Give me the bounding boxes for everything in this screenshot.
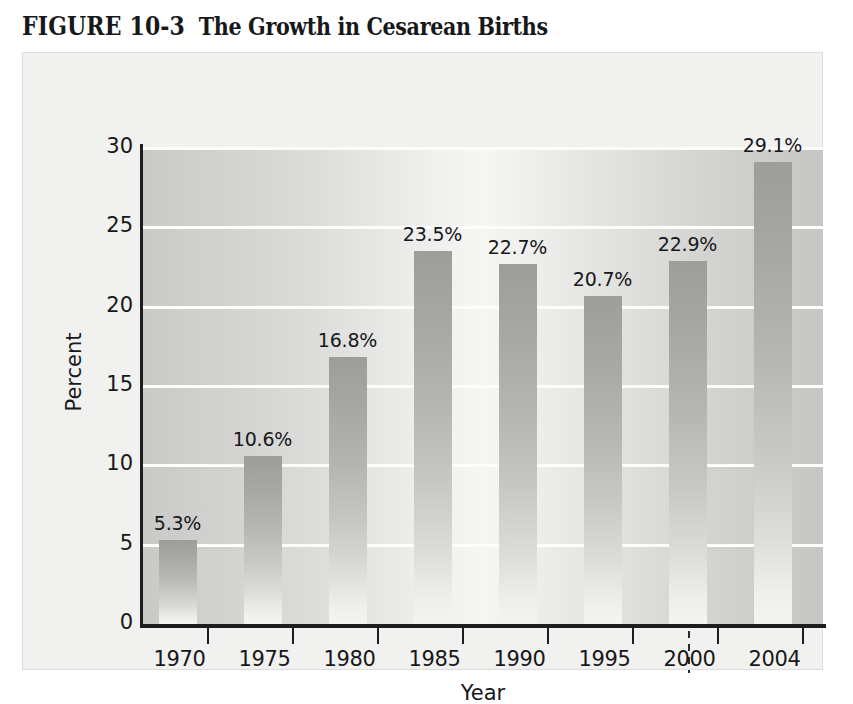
bar-value-label: 10.6% — [223, 428, 303, 450]
bar-value-label: 22.7% — [478, 236, 558, 258]
gridline — [143, 385, 823, 388]
y-axis-title: Percent — [62, 312, 86, 432]
bar-value-label: 16.8% — [308, 329, 388, 351]
x-axis-tick-label: 1975 — [220, 647, 310, 671]
x-axis-tick — [377, 628, 379, 644]
figure-title: FIGURE 10-3The Growth in Cesarean Births — [22, 8, 710, 46]
y-axis-tick-label: 15 — [93, 372, 133, 396]
x-axis-tick — [802, 628, 804, 644]
bar — [669, 261, 707, 624]
gridline — [143, 147, 823, 150]
figure-number: FIGURE 10-3 — [22, 11, 185, 41]
x-axis-tick — [207, 628, 209, 644]
x-axis-tick-label: 2000 — [645, 647, 735, 671]
y-axis-line — [140, 144, 143, 628]
figure-box: 051015202530 Percent Year 5.3%197010.6%1… — [22, 52, 823, 670]
x-axis-tick-label: 1995 — [560, 647, 650, 671]
bar-value-label: 20.7% — [563, 268, 643, 290]
y-axis-tick-labels: 051015202530 — [85, 53, 133, 704]
bar-value-label: 23.5% — [393, 223, 473, 245]
bar — [244, 456, 282, 624]
bar — [329, 357, 367, 624]
x-axis-tick — [292, 628, 294, 644]
x-axis-tick-label: 1980 — [305, 647, 395, 671]
x-axis-tick-label: 1985 — [390, 647, 480, 671]
x-axis-tick — [547, 628, 549, 644]
bar-value-label: 22.9% — [648, 233, 728, 255]
x-axis-tick-label: 1970 — [135, 647, 225, 671]
bar — [754, 162, 792, 624]
figure-name: The Growth in Cesarean Births — [199, 12, 548, 41]
gridline — [143, 226, 823, 229]
y-axis-tick-label: 5 — [93, 531, 133, 555]
y-axis-tick-label: 10 — [93, 451, 133, 475]
x-axis-tick — [632, 628, 634, 644]
bar-value-label: 29.1% — [733, 134, 813, 156]
x-axis-tick — [717, 628, 719, 644]
y-axis-tick-label: 20 — [93, 293, 133, 317]
gridline — [143, 306, 823, 309]
plot-area — [143, 148, 823, 624]
y-axis-tick-label: 30 — [93, 134, 133, 158]
bar — [499, 264, 537, 624]
x-axis-tick-label: 2004 — [730, 647, 820, 671]
x-axis-tick — [462, 628, 464, 644]
bar — [584, 296, 622, 624]
x-axis-tick-label: 1990 — [475, 647, 565, 671]
bar-value-label: 5.3% — [138, 512, 218, 534]
y-axis-tick-label: 25 — [93, 213, 133, 237]
bar — [159, 540, 197, 624]
x-axis-title: Year — [143, 681, 823, 704]
x-axis-line — [140, 624, 826, 628]
bar — [414, 251, 452, 624]
y-axis-tick-label: 0 — [93, 610, 133, 634]
